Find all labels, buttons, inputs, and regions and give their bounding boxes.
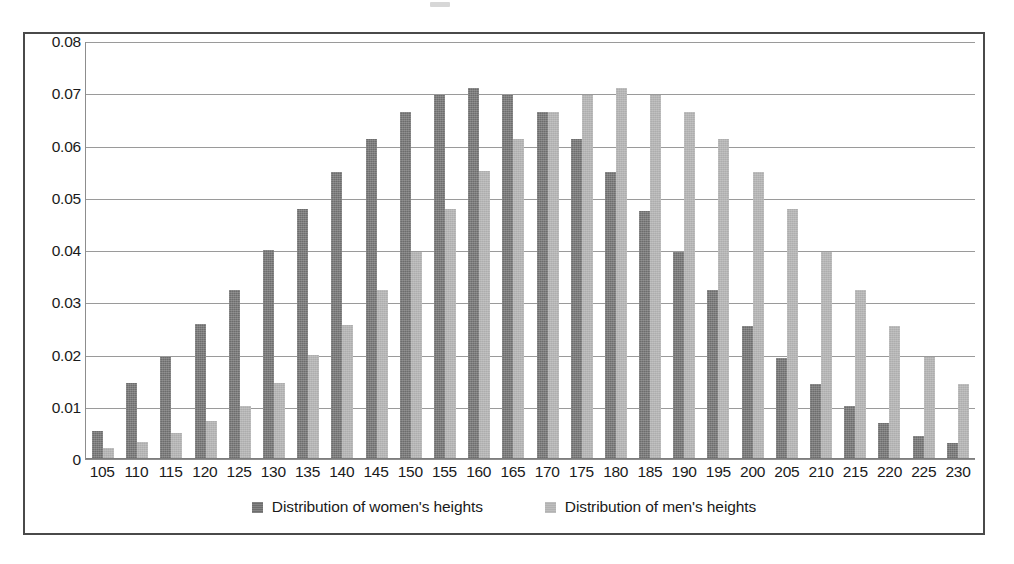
legend-entry[interactable]: Distribution of women's heights (252, 499, 483, 515)
y-axis-tick-label: 0.02 (33, 348, 81, 364)
bar-men[interactable] (616, 88, 627, 459)
bar-women[interactable] (844, 406, 855, 459)
legend-entry[interactable]: Distribution of men's heights (545, 499, 756, 515)
bar-women[interactable] (263, 250, 274, 459)
bar-men[interactable] (924, 357, 935, 459)
x-axis-tick-label: 200 (735, 462, 769, 486)
x-axis-tick-label: 145 (359, 462, 393, 486)
x-axis-tick-label: 205 (770, 462, 804, 486)
scan-artifact (430, 2, 450, 7)
bar-men[interactable] (821, 252, 832, 459)
bar-group (394, 42, 428, 459)
bar-group (154, 42, 188, 459)
bar-group (565, 42, 599, 459)
bars-layer (86, 42, 975, 459)
bar-women[interactable] (126, 383, 137, 459)
bar-group (223, 42, 257, 459)
bar-women[interactable] (92, 431, 103, 459)
y-axis-tick-label: 0.01 (33, 400, 81, 416)
bar-women[interactable] (878, 423, 889, 459)
women-swatch-icon (252, 502, 263, 513)
y-axis-tick-label: 0.08 (33, 34, 81, 50)
bar-women[interactable] (742, 326, 753, 459)
bar-group (872, 42, 906, 459)
plot-area (85, 42, 975, 460)
bar-men[interactable] (308, 355, 319, 460)
y-axis-tick-label: 0.03 (33, 296, 81, 312)
bar-men[interactable] (240, 406, 251, 459)
bar-group (257, 42, 291, 459)
bar-men[interactable] (445, 209, 456, 459)
bar-men[interactable] (377, 290, 388, 459)
y-axis-tick-label: 0 (33, 452, 81, 468)
bar-women[interactable] (537, 112, 548, 459)
x-axis-tick-label: 105 (85, 462, 119, 486)
legend-label: Distribution of women's heights (272, 499, 483, 515)
x-axis-tick-label: 175 (564, 462, 598, 486)
x-axis-tick-label: 160 (462, 462, 496, 486)
bar-men[interactable] (787, 209, 798, 459)
men-swatch-icon (545, 502, 556, 513)
bar-women[interactable] (571, 139, 582, 459)
bar-men[interactable] (753, 172, 764, 459)
x-axis-tick-label: 210 (804, 462, 838, 486)
y-axis-tick-label: 0.05 (33, 191, 81, 207)
legend-label: Distribution of men's heights (565, 499, 756, 515)
x-axis-tick-label: 130 (256, 462, 290, 486)
bar-men[interactable] (718, 139, 729, 459)
bar-women[interactable] (400, 112, 411, 459)
bar-men[interactable] (479, 171, 490, 459)
bar-women[interactable] (639, 211, 650, 459)
bar-group (86, 42, 120, 459)
bar-women[interactable] (776, 358, 787, 459)
bar-group (667, 42, 701, 459)
bar-women[interactable] (673, 252, 684, 459)
bar-men[interactable] (513, 139, 524, 459)
chart-figure-frame: 0.080.070.060.050.040.030.020.010 105110… (23, 32, 985, 535)
bar-men[interactable] (206, 421, 217, 459)
bar-group (291, 42, 325, 459)
bar-group (701, 42, 735, 459)
bar-women[interactable] (366, 139, 377, 459)
bar-group (941, 42, 975, 459)
x-axis-tick-label: 135 (290, 462, 324, 486)
bar-women[interactable] (229, 290, 240, 459)
y-axis-tick-label: 0.04 (33, 243, 81, 259)
x-axis-tick-label: 115 (153, 462, 187, 486)
bar-men[interactable] (548, 112, 559, 459)
x-axis-tick-label: 190 (667, 462, 701, 486)
chart-legend: Distribution of women's heightsDistribut… (25, 492, 983, 522)
bar-women[interactable] (502, 95, 513, 459)
bar-men[interactable] (137, 442, 148, 459)
bar-men[interactable] (958, 384, 969, 459)
bar-men[interactable] (171, 433, 182, 459)
x-axis-tick-label: 140 (325, 462, 359, 486)
bar-men[interactable] (650, 95, 661, 459)
bar-women[interactable] (468, 88, 479, 459)
bar-women[interactable] (297, 209, 308, 459)
bar-group (428, 42, 462, 459)
bar-women[interactable] (605, 172, 616, 459)
bar-men[interactable] (342, 325, 353, 459)
bar-group (599, 42, 633, 459)
bar-men[interactable] (411, 252, 422, 459)
bar-men[interactable] (582, 95, 593, 459)
x-axis-tick-label: 170 (530, 462, 564, 486)
bar-group (633, 42, 667, 459)
bar-women[interactable] (195, 324, 206, 459)
bar-men[interactable] (684, 112, 695, 459)
bar-women[interactable] (947, 443, 958, 459)
bar-men[interactable] (855, 290, 866, 459)
bar-women[interactable] (913, 436, 924, 460)
y-axis-tick-label: 0.06 (33, 139, 81, 155)
bar-men[interactable] (889, 326, 900, 459)
bar-women[interactable] (707, 290, 718, 459)
bar-women[interactable] (434, 95, 445, 459)
bar-group (838, 42, 872, 459)
bar-women[interactable] (160, 357, 171, 459)
bar-men[interactable] (274, 383, 285, 459)
x-axis-tick-label: 165 (496, 462, 530, 486)
bar-women[interactable] (331, 172, 342, 459)
x-axis-tick-label: 180 (599, 462, 633, 486)
bar-women[interactable] (810, 384, 821, 459)
